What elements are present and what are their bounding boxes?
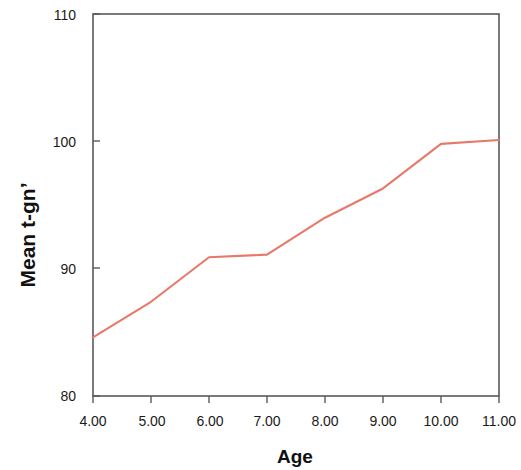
plot-frame	[93, 14, 499, 396]
data-series-line	[93, 140, 499, 337]
x-axis-ticks	[93, 396, 499, 403]
y-axis-ticks	[93, 14, 100, 396]
